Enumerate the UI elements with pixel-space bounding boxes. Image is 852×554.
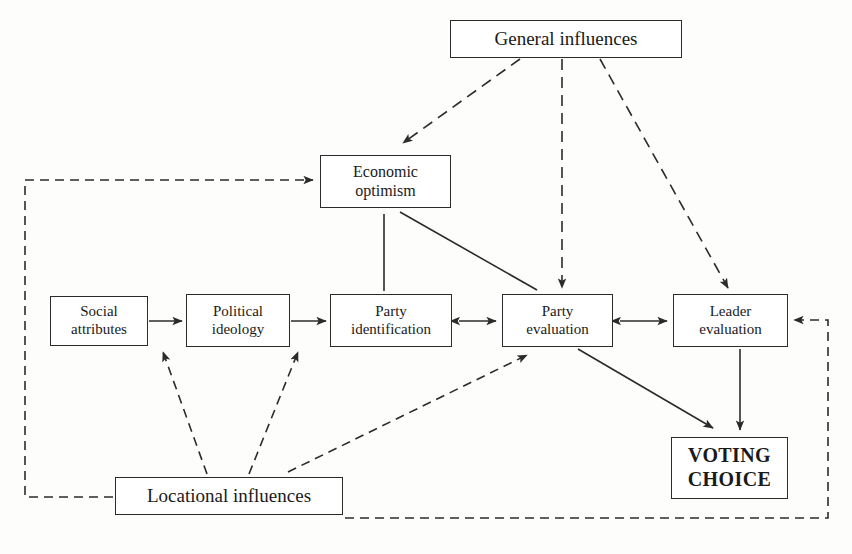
text-line: identification — [351, 321, 431, 337]
edge-party-evaluation-to-voting — [578, 349, 713, 428]
text-line: CHOICE — [688, 468, 772, 490]
node-party-evaluation[interactable]: Party evaluation — [502, 294, 613, 347]
node-party-identification-label: Party identification — [347, 303, 435, 338]
edge-general-to-leader-evaluation — [600, 59, 728, 288]
node-leader-evaluation[interactable]: Leader evaluation — [673, 294, 788, 347]
text-line: Leader — [710, 303, 752, 319]
edge-general-to-economic — [403, 59, 520, 143]
text-line: attributes — [71, 321, 127, 337]
node-political-ideology-label: Political ideology — [208, 303, 269, 338]
diagram-canvas: General influences Economic optimism Soc… — [0, 0, 852, 554]
text-line: evaluation — [699, 321, 761, 337]
text-line: Party — [542, 303, 574, 319]
node-voting-choice[interactable]: VOTING CHOICE — [671, 437, 788, 499]
edge-economic-to-party-evaluation — [400, 212, 537, 290]
node-social-attributes[interactable]: Social attributes — [50, 296, 148, 346]
text-line: Party — [375, 303, 407, 319]
node-party-evaluation-label: Party evaluation — [522, 303, 592, 338]
text-line: Economic — [353, 163, 418, 180]
text-line: VOTING — [688, 444, 771, 466]
node-political-ideology[interactable]: Political ideology — [186, 294, 290, 347]
edge-locational-to-party-identification — [249, 352, 298, 474]
node-general-influences[interactable]: General influences — [450, 20, 682, 58]
text-line: Political — [213, 303, 263, 319]
text-line: ideology — [212, 321, 265, 337]
text-line: evaluation — [526, 321, 588, 337]
node-social-attributes-label: Social attributes — [67, 303, 131, 338]
node-economic-optimism-label: Economic optimism — [349, 163, 422, 201]
edge-locational-to-social — [163, 352, 207, 474]
node-leader-evaluation-label: Leader evaluation — [695, 303, 765, 338]
node-party-identification[interactable]: Party identification — [330, 294, 452, 347]
node-voting-choice-label: VOTING CHOICE — [684, 444, 776, 491]
node-locational-influences-label: Locational influences — [143, 485, 315, 507]
edge-locational-to-party-evaluation — [288, 355, 527, 472]
node-locational-influences[interactable]: Locational influences — [115, 477, 343, 515]
text-line: optimism — [355, 182, 415, 199]
node-economic-optimism[interactable]: Economic optimism — [320, 155, 451, 208]
node-general-influences-label: General influences — [491, 28, 642, 50]
text-line: Social — [80, 303, 118, 319]
